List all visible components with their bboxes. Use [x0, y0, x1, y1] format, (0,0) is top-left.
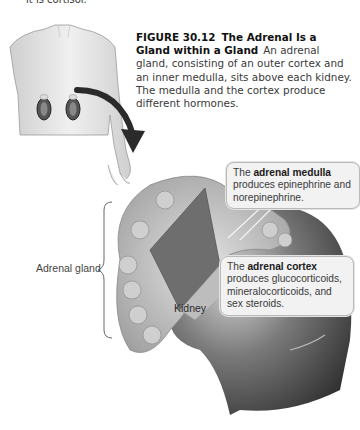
adrenal-medulla-callout: The adrenal medulla produces epinephrine…: [226, 162, 360, 209]
callout-term: adrenal medulla: [253, 167, 331, 178]
callout-text: produces glucocorticoids, mineralocortic…: [227, 273, 342, 309]
figure-number: FIGURE 30.12: [136, 31, 216, 43]
kidney-label: Kidney: [174, 302, 206, 314]
callout-prefix: The: [233, 167, 253, 178]
callout-term: adrenal cortex: [247, 261, 317, 272]
adrenal-gland-label: Adrenal gland: [36, 262, 101, 274]
arrow-icon: [65, 85, 145, 155]
top-fragment-text: it is cortisol.: [26, 0, 87, 5]
callout-text: produces epinephrine and norepinephrine.: [233, 179, 351, 202]
callout-prefix: The: [227, 261, 247, 272]
adrenal-cortex-callout: The adrenal cortex produces glucocortico…: [220, 256, 354, 316]
figure-caption: FIGURE 30.12The Adrenal Is a Gland withi…: [136, 31, 354, 110]
